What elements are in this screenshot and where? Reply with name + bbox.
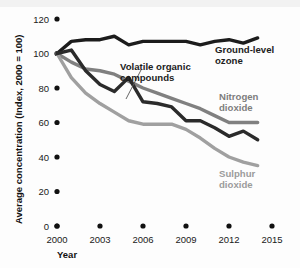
line-chart: 120 100 80 60 40 20 0 2000 2003 2006 200…	[0, 0, 300, 268]
annotation-sulphur-dioxide: Sulphur dioxide	[219, 168, 256, 190]
y-tick-label-60: 60	[38, 117, 49, 128]
y-tick-label-0: 0	[44, 221, 49, 232]
y-tick-dot-80	[54, 85, 59, 90]
annotation-voc-line1: Volatile organic	[120, 61, 191, 72]
y-axis-tick-labels: 120 100 80 60 40 20 0	[33, 14, 49, 232]
y-tick-label-100: 100	[33, 48, 49, 59]
x-tick-label-2015: 2015	[261, 234, 282, 245]
x-tick-label-2000: 2000	[46, 234, 67, 245]
annotation-sulphur-dioxide-line2: dioxide	[219, 179, 253, 190]
x-tick-label-2006: 2006	[132, 234, 153, 245]
x-tick-label-2003: 2003	[89, 234, 110, 245]
annotation-nitrogen-dioxide-line1: Nitrogen	[219, 91, 259, 102]
x-tick-dot-2000	[54, 223, 59, 228]
annotation-sulphur-dioxide-line1: Sulphur	[219, 168, 256, 179]
annotation-nitrogen-dioxide: Nitrogen dioxide	[219, 91, 259, 113]
y-tick-dot-60	[54, 120, 59, 125]
x-axis-tick-labels: 2000 2003 2006 2009 2012 2015	[46, 234, 282, 245]
x-tick-label-2009: 2009	[175, 234, 196, 245]
annotation-ground-level-ozone-line2: ozone	[215, 55, 243, 66]
annotation-ground-level-ozone: Ground-level ozone	[215, 44, 274, 66]
annotation-nitrogen-dioxide-line2: dioxide	[219, 102, 253, 113]
x-tick-dot-2006	[140, 223, 145, 228]
x-tick-dot-2009	[183, 223, 188, 228]
x-tick-label-2012: 2012	[218, 234, 239, 245]
y-tick-dot-120	[54, 16, 59, 21]
y-axis-ticks	[54, 16, 59, 228]
y-tick-dot-40	[54, 154, 59, 159]
y-tick-label-20: 20	[38, 186, 49, 197]
x-tick-dot-2015	[269, 223, 274, 228]
annotation-ground-level-ozone-line1: Ground-level	[215, 44, 274, 55]
annotation-voc-line2: compounds	[120, 72, 174, 83]
y-tick-label-40: 40	[38, 152, 49, 163]
x-tick-dot-2012	[226, 223, 231, 228]
annotation-volatile-organic-compounds: Volatile organic compounds	[120, 61, 191, 83]
y-tick-dot-20	[54, 189, 59, 194]
x-axis-ticks	[54, 223, 274, 228]
y-axis-title: Average concentration (Index, 2000 = 100…	[13, 35, 24, 224]
x-tick-dot-2003	[97, 223, 102, 228]
x-axis-title: Year	[57, 249, 77, 260]
y-tick-label-120: 120	[33, 14, 49, 25]
chart-canvas: 120 100 80 60 40 20 0 2000 2003 2006 200…	[0, 0, 300, 268]
y-tick-label-80: 80	[38, 83, 49, 94]
